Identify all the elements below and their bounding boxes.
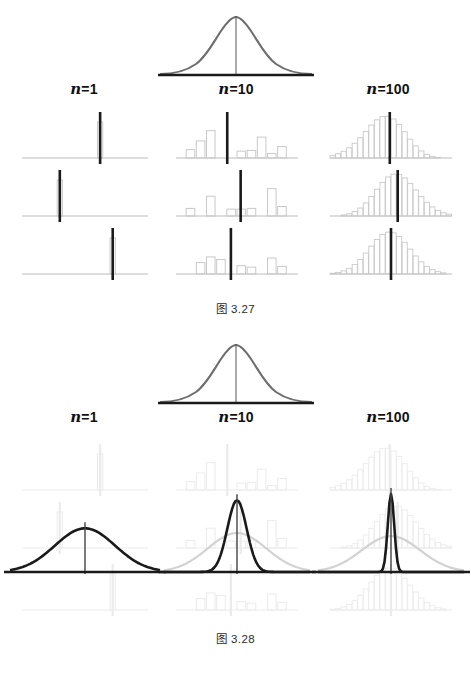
population-curve-svg-327 (0, 0, 471, 80)
histogram-bar (369, 582, 374, 610)
histogram-bar (363, 463, 368, 490)
column-headers-328: n=1 n=10 n=100 (0, 408, 471, 434)
histogram-bar (352, 265, 357, 274)
population-distribution-327 (0, 0, 471, 80)
histogram-bar (358, 208, 363, 216)
histogram-bar (446, 546, 451, 548)
histogram-bar (419, 529, 424, 549)
histogram-bar (419, 483, 424, 490)
sampling-column-n10-328 (158, 444, 316, 616)
histogram-bar (196, 599, 205, 610)
histogram-bar (430, 606, 435, 610)
histogram-bar (341, 151, 346, 158)
histogram-bar (358, 259, 363, 274)
histogram-bar (341, 483, 346, 490)
histogram-bar (247, 267, 256, 274)
histogram-bar (237, 151, 246, 158)
histogram-bar (402, 510, 407, 548)
histogram-bar (397, 236, 402, 274)
histogram-bar (435, 608, 440, 610)
histogram-bar (336, 486, 341, 490)
histogram-bar (186, 482, 195, 490)
histogram-bar (237, 266, 246, 274)
histogram-bar (419, 262, 424, 274)
sample-panel-n10-row1 (176, 112, 298, 164)
histogram-bar (369, 196, 374, 216)
sampling-panels-328 (0, 434, 471, 619)
histogram-bar (336, 608, 341, 610)
histogram-bar (247, 208, 256, 216)
histogram-bar (352, 212, 357, 216)
histogram-bar (380, 117, 385, 158)
histogram-bar (430, 270, 435, 274)
histogram-bar (278, 539, 287, 549)
figure-caption-328: 图 3.28 (0, 630, 471, 646)
histogram-bar (352, 475, 357, 490)
histogram-bar (435, 210, 440, 216)
histogram-bar (196, 141, 205, 158)
histogram-bar (374, 120, 379, 158)
histogram-bar (358, 540, 363, 548)
histogram-bar (435, 542, 440, 548)
population-curve-svg-328 (0, 328, 471, 408)
n-symbol: n (366, 80, 377, 98)
sample-column-n1-327 (22, 112, 148, 280)
figure-3-27: n=1 n=10 n=100 图 3.27 (0, 0, 471, 286)
histogram-bar (196, 263, 205, 274)
histogram-bar (380, 449, 385, 490)
histogram-bar (424, 266, 429, 274)
histogram-bar (380, 182, 385, 216)
histogram-bar (369, 246, 374, 274)
histogram-bar (413, 256, 418, 274)
histogram-bar (237, 602, 246, 610)
histogram-bar (374, 240, 379, 274)
histogram-bar (207, 196, 216, 216)
histogram-bar (257, 137, 266, 158)
histogram-bar (402, 178, 407, 216)
histogram-bar (352, 143, 357, 158)
column-label-n10-328: n=10 (166, 408, 306, 426)
histogram-bar (435, 489, 440, 490)
sample-panel-n100-row1 (330, 112, 452, 164)
n-symbol: n (366, 408, 377, 426)
histogram-bar (369, 457, 374, 490)
histogram-bar (278, 266, 287, 274)
histogram-bar (330, 155, 335, 158)
histogram-bar (402, 132, 407, 158)
histogram-bar (391, 451, 396, 490)
column-label-n10-suffix: =10 (229, 81, 253, 97)
histogram-bar (408, 585, 413, 610)
histogram-bar (186, 540, 195, 548)
histogram-bar (352, 544, 357, 548)
histogram-bar (347, 148, 352, 158)
histogram-bar (347, 214, 352, 216)
column-label-n100-328: n=100 (318, 408, 458, 426)
n-symbol: n (70, 408, 81, 426)
histogram-bar (207, 257, 216, 274)
n-symbol: n (70, 80, 81, 98)
sample-grid-327 (0, 106, 471, 286)
histogram-bar (336, 272, 341, 274)
histogram-bar (369, 125, 374, 158)
histogram-bar (419, 151, 424, 158)
column-label-n1-suffix: =1 (81, 81, 97, 97)
figure-caption-327: 图 3.27 (0, 300, 471, 316)
histogram-bar (374, 521, 379, 548)
histogram-bar (358, 595, 363, 610)
histogram-bar (358, 138, 363, 158)
histogram-bar (268, 258, 277, 274)
histogram-bar (413, 190, 418, 216)
histogram-bar (374, 189, 379, 216)
histogram-bar (430, 539, 435, 548)
sample-column-n10-327 (176, 112, 298, 280)
histogram-bar (336, 154, 341, 158)
histogram-bar (363, 203, 368, 216)
histogram-bar (278, 147, 287, 158)
histogram-bar (408, 183, 413, 216)
histogram-bar (402, 578, 407, 610)
histogram-bar (391, 174, 396, 216)
sampling-column-n100-328 (312, 444, 470, 616)
histogram-bar (435, 272, 440, 274)
histogram-bar (430, 488, 435, 490)
sample-panel-n1-row2 (22, 170, 148, 222)
